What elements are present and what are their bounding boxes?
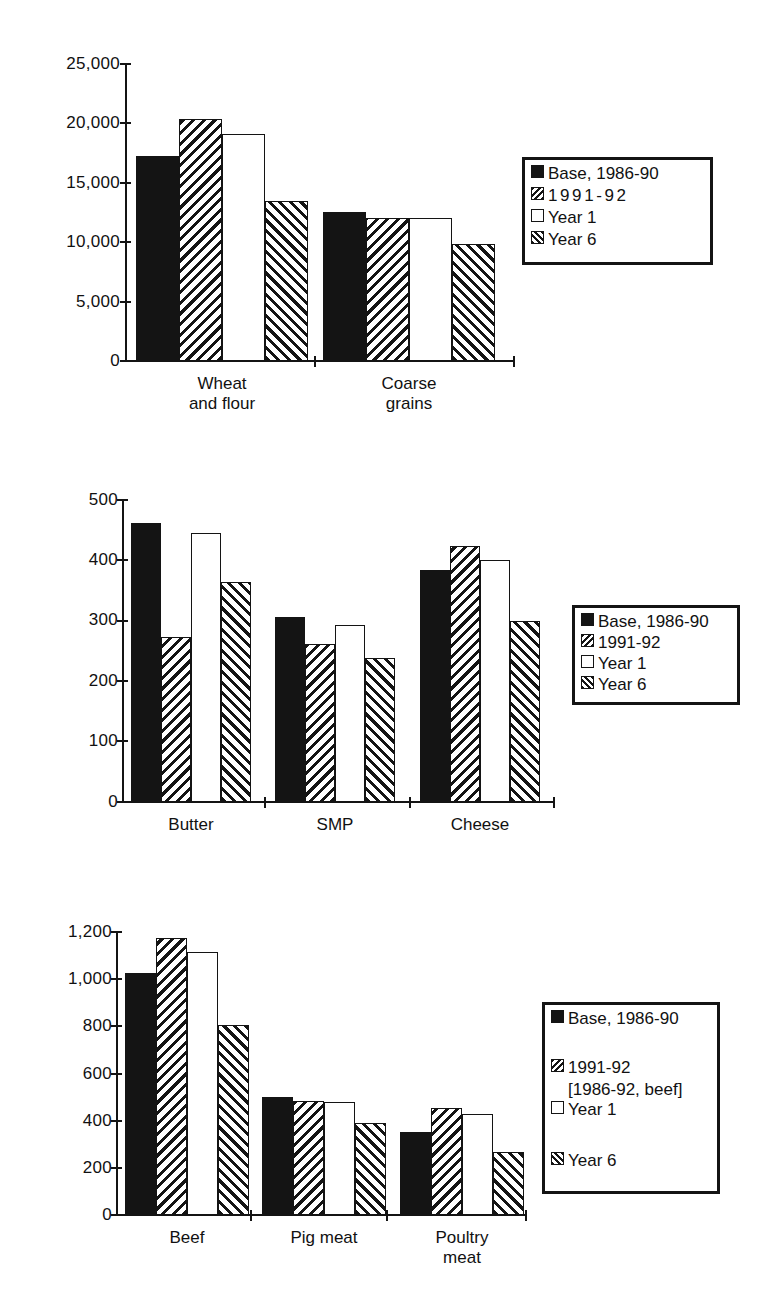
legend-item: 1991-92 (531, 187, 704, 204)
forwardslash-hatch-square-icon (531, 231, 544, 244)
legend-item: Base, 1986-90 (531, 165, 704, 182)
chart-wheat-coarse-grains: 25,000 20,000 15,000 10,000 5,000 0 Whea… (0, 0, 777, 440)
bar-cheese-year6 (510, 621, 540, 802)
chart-dairy: 500 400 300 200 100 0 (0, 440, 777, 880)
legend-item-label: 1991-92 (568, 1059, 630, 1076)
legend-item: Year 1 (551, 1101, 711, 1118)
bar-butter-base (131, 523, 161, 802)
white-square-icon (531, 209, 544, 222)
bar-smp-year1 (335, 625, 365, 802)
bar-butter-1991-92 (161, 637, 191, 802)
bar-beef-1991-92 (156, 938, 187, 1215)
bar-smp-base (275, 617, 305, 802)
legend-item-label: Base, 1986-90 (548, 165, 659, 182)
bar-cheese-base (420, 570, 450, 802)
bar-wheat-1991-92 (179, 119, 222, 361)
bar-wheat-base (136, 156, 179, 361)
bar-smp-year6 (365, 658, 395, 802)
legend-item: Year 6 (551, 1152, 711, 1169)
bar-poultrymeat-year6 (493, 1152, 524, 1215)
legend-item-label: Year 6 (548, 231, 597, 248)
bar-coarse-base (323, 212, 366, 361)
bar-butter-year1 (191, 533, 221, 802)
legend-item-label: Base, 1986-90 (598, 613, 709, 630)
category-label-butter: Butter (111, 815, 271, 835)
category-label-coarse-grains: Coarse grains (329, 374, 489, 414)
legend-item: 1991-92 (581, 634, 731, 651)
bar-coarse-year1 (409, 218, 452, 361)
legend-item: Year 6 (531, 231, 704, 248)
white-square-icon (551, 1101, 564, 1114)
legend-item-label: Year 6 (598, 676, 647, 693)
category-label-wheat: Wheat and flour (142, 374, 302, 414)
bar-poultrymeat-year1 (462, 1114, 493, 1215)
bar-cheese-year1 (480, 560, 510, 802)
bar-butter-year6 (221, 582, 251, 802)
bar-beef-year6 (218, 1025, 249, 1215)
legend-item: Year 1 (531, 209, 704, 226)
bar-pigmeat-year6 (355, 1123, 386, 1215)
black-square-icon (581, 613, 594, 626)
black-square-icon (551, 1010, 564, 1023)
bar-coarse-1991-92 (366, 218, 409, 361)
bar-wheat-year6 (265, 201, 308, 361)
bar-poultrymeat-base (400, 1132, 431, 1215)
category-label-cheese: Cheese (400, 815, 560, 835)
legend-item: Year 1 (581, 655, 731, 672)
bar-wheat-year1 (222, 134, 265, 361)
backslash-hatch-square-icon (581, 634, 594, 647)
bar-pigmeat-1991-92 (293, 1101, 324, 1215)
legend-item: Base, 1986-90 (551, 1010, 711, 1027)
legend-item-sublabel: [1986-92, beef] (551, 1080, 711, 1099)
category-label-poultry-meat: Poultry meat (382, 1228, 542, 1268)
bar-beef-base (125, 973, 156, 1215)
legend-chart-3: Base, 1986-90 1991-92 [1986-92, beef] Ye… (542, 1002, 720, 1194)
bar-beef-year1 (187, 952, 218, 1215)
backslash-hatch-square-icon (551, 1059, 564, 1072)
legend-item-label: Year 1 (548, 209, 597, 226)
category-label-smp: SMP (255, 815, 415, 835)
legend-item-label: Year 1 (598, 655, 647, 672)
legend-chart-2: Base, 1986-90 1991-92 Year 1 Year 6 (572, 605, 740, 705)
category-label-beef: Beef (107, 1228, 267, 1248)
bar-poultrymeat-1991-92 (431, 1108, 462, 1215)
black-square-icon (531, 165, 544, 178)
legend-item-label: 1991-92 (548, 187, 629, 204)
white-square-icon (581, 655, 594, 668)
legend-item: Year 6 (581, 676, 731, 693)
legend-item-label: Year 6 (568, 1152, 617, 1169)
legend-item: 1991-92 [1986-92, beef] (551, 1059, 711, 1099)
legend-chart-1: Base, 1986-90 1991-92 Year 1 Year 6 (522, 157, 713, 265)
bar-coarse-year6 (452, 244, 495, 361)
legend-item-label: 1991-92 (598, 634, 660, 651)
legend-item-label: Year 1 (568, 1101, 617, 1118)
forwardslash-hatch-square-icon (581, 676, 594, 689)
forwardslash-hatch-square-icon (551, 1152, 564, 1165)
category-label-pig-meat: Pig meat (244, 1228, 404, 1248)
legend-item: Base, 1986-90 (581, 613, 731, 630)
chart-meat: 1,200 1,000 800 600 400 200 0 (0, 880, 777, 1315)
legend-item-label: Base, 1986-90 (568, 1010, 679, 1027)
bar-pigmeat-base (262, 1097, 293, 1215)
bar-smp-1991-92 (305, 644, 335, 802)
bar-pigmeat-year1 (324, 1102, 355, 1215)
bar-cheese-1991-92 (450, 546, 480, 802)
backslash-hatch-square-icon (531, 187, 544, 200)
